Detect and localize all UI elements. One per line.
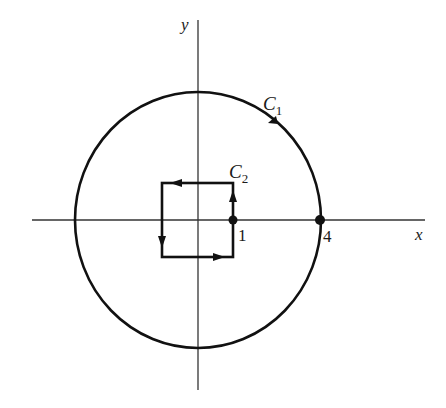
point-4-dot	[315, 215, 325, 225]
curve-c2: C2	[158, 161, 248, 261]
axes: x y	[32, 15, 425, 390]
point-1-label: 1	[238, 226, 247, 245]
point-1-dot	[229, 216, 238, 225]
c2-arrow-right-icon	[213, 253, 225, 261]
c2-arrow-left-icon	[170, 179, 182, 187]
c2-arrow-down-icon	[158, 236, 166, 248]
contour-diagram: x y C1 C2 1 4	[0, 0, 446, 408]
c2-arrow-up-icon	[229, 190, 237, 202]
y-axis-label: y	[179, 15, 189, 34]
point-4-label: 4	[323, 227, 332, 246]
x-axis-label: x	[414, 225, 423, 244]
